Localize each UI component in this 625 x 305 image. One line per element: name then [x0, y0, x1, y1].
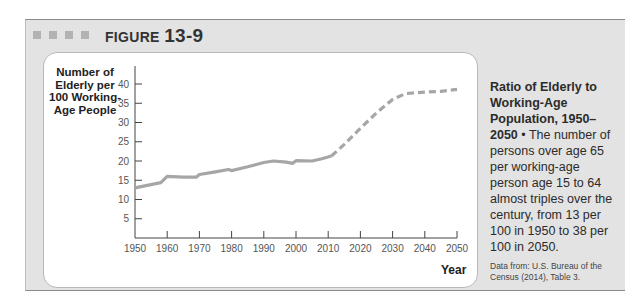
caption-source: Data from: U.S. Bureau of the Census (20… — [490, 261, 617, 283]
caption-body: The number of persons over age 65 per wo… — [490, 128, 612, 254]
x-tick-label: 1980 — [220, 243, 243, 254]
caption: Ratio of Elderly to Working-Age Populati… — [490, 79, 617, 283]
x-tick-label: 1990 — [253, 243, 276, 254]
caption-text: Ratio of Elderly to Working-Age Populati… — [490, 79, 617, 255]
x-tick-label: 2000 — [285, 243, 308, 254]
x-tick-label: 2050 — [446, 243, 469, 254]
x-tick-label: 2020 — [349, 243, 372, 254]
x-tick-label: 2010 — [317, 243, 340, 254]
x-tick-label: 1950 — [124, 243, 147, 254]
y-tick-label: 40 — [118, 79, 130, 90]
y-tick-label: 35 — [118, 98, 130, 109]
axes: 5101520253035401950196019701980199020002… — [118, 66, 469, 254]
x-tick-label: 2040 — [414, 243, 437, 254]
data-series — [135, 89, 457, 187]
series-line-actual — [135, 156, 331, 188]
series-line-projected — [331, 89, 457, 156]
y-tick-label: 25 — [118, 136, 130, 147]
y-tick-label: 10 — [118, 194, 130, 205]
x-tick-label: 2030 — [381, 243, 404, 254]
y-tick-label: 5 — [123, 213, 129, 224]
y-tick-label: 20 — [118, 156, 130, 167]
y-tick-label: 15 — [118, 175, 130, 186]
caption-bullet: • — [521, 128, 525, 142]
x-tick-label: 1970 — [188, 243, 211, 254]
x-tick-label: 1960 — [156, 243, 179, 254]
y-tick-label: 30 — [118, 117, 130, 128]
